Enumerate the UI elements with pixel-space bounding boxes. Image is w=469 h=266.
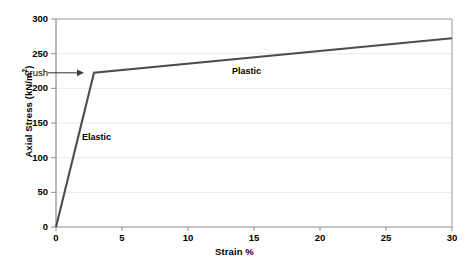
crush-arrow [48, 69, 84, 76]
x-axis-ticks [56, 227, 452, 231]
plot-svg [0, 0, 469, 266]
y-axis-ticks [51, 19, 56, 227]
gridlines [56, 54, 452, 193]
stress-strain-curve [56, 38, 452, 227]
chart-figure: Axial Stress (kN/m2) 300 250 200 150 100… [0, 0, 469, 266]
